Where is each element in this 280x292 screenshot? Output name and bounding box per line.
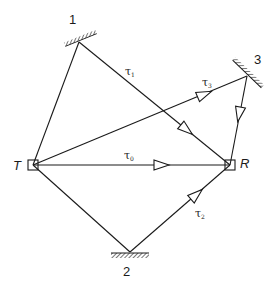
- reflector-1: [64, 30, 97, 46]
- path-t-to-2: [33, 165, 130, 252]
- arrow-direct-icon: [154, 160, 169, 170]
- path-t-to-3: [33, 76, 247, 165]
- arrow-3-to-r-icon: [233, 106, 246, 123]
- reflector-2: [111, 253, 149, 258]
- path-2-to-r: [130, 165, 230, 252]
- arrow-1-to-r-icon: [178, 121, 196, 138]
- reflector-1-label: 1: [69, 12, 76, 27]
- tau-1-label: τ1: [125, 65, 135, 78]
- tau-2-label: τ2: [195, 207, 205, 220]
- path-1-to-r: [79, 42, 230, 165]
- reflector-3-label: 3: [254, 52, 261, 67]
- receiver-label: R: [240, 156, 249, 171]
- path-t-to-1: [33, 42, 79, 165]
- reflector-2-label: 2: [123, 264, 130, 279]
- transmitter-label: T: [13, 158, 22, 173]
- tau-0-label: τ0: [124, 149, 134, 162]
- tau-3-label: τ3: [202, 76, 212, 89]
- multipath-diagram: T R 1 2 3 τ1 τ3 τ0 τ2: [0, 0, 280, 292]
